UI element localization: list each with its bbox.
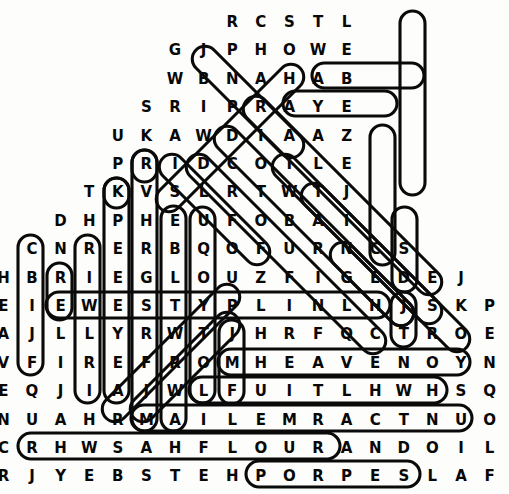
grid-cell[interactable]: R xyxy=(306,237,330,261)
grid-cell[interactable]: H xyxy=(77,408,101,432)
grid-cell[interactable]: G xyxy=(134,266,158,290)
grid-cell[interactable]: J xyxy=(449,266,473,290)
grid-cell[interactable]: R xyxy=(0,464,15,488)
grid-cell[interactable]: B xyxy=(20,266,44,290)
grid-cell[interactable]: H xyxy=(249,322,273,346)
grid-cell[interactable]: V xyxy=(134,180,158,204)
grid-cell[interactable]: E xyxy=(335,38,359,62)
grid-cell[interactable]: N xyxy=(306,294,330,318)
grid-cell[interactable]: A xyxy=(306,67,330,91)
grid-cell[interactable]: C xyxy=(363,322,387,346)
grid-cell[interactable]: H xyxy=(163,436,187,460)
grid-cell[interactable]: J xyxy=(220,322,244,346)
grid-cell[interactable]: W xyxy=(192,124,216,148)
grid-cell[interactable]: A xyxy=(106,379,130,403)
grid-cell[interactable]: N xyxy=(0,408,15,432)
grid-cell[interactable]: E xyxy=(363,266,387,290)
grid-cell[interactable]: U xyxy=(20,408,44,432)
grid-cell[interactable]: R xyxy=(163,95,187,119)
grid-cell[interactable]: A xyxy=(163,408,187,432)
grid-cell[interactable]: N xyxy=(478,351,502,375)
grid-cell[interactable]: I xyxy=(192,408,216,432)
grid-cell[interactable]: B xyxy=(163,237,187,261)
grid-cell[interactable]: M xyxy=(134,408,158,432)
grid-cell[interactable]: N xyxy=(392,351,416,375)
grid-cell[interactable]: J xyxy=(335,180,359,204)
grid-cell[interactable]: W xyxy=(163,67,187,91)
grid-cell[interactable]: P xyxy=(220,294,244,318)
grid-cell[interactable]: W xyxy=(77,436,101,460)
grid-cell[interactable]: Y xyxy=(49,464,73,488)
grid-cell[interactable]: L xyxy=(192,180,216,204)
grid-cell[interactable]: E xyxy=(249,408,273,432)
grid-cell[interactable]: Z xyxy=(249,266,273,290)
grid-cell[interactable]: U xyxy=(277,237,301,261)
grid-cell[interactable]: I xyxy=(77,266,101,290)
grid-cell[interactable]: C xyxy=(0,436,15,460)
grid-cell[interactable]: A xyxy=(49,408,73,432)
grid-cell[interactable]: E xyxy=(478,322,502,346)
grid-cell[interactable]: H xyxy=(220,464,244,488)
grid-cell[interactable]: P xyxy=(106,152,130,176)
grid-cell[interactable]: H xyxy=(420,379,444,403)
grid-cell[interactable]: I xyxy=(163,152,187,176)
grid-cell[interactable]: B xyxy=(335,67,359,91)
grid-cell[interactable]: A xyxy=(134,436,158,460)
grid-cell[interactable]: Y xyxy=(306,95,330,119)
grid-cell[interactable]: L xyxy=(220,436,244,460)
grid-cell[interactable]: B xyxy=(192,67,216,91)
grid-cell[interactable]: E xyxy=(49,294,73,318)
grid-cell[interactable]: U xyxy=(220,266,244,290)
grid-cell[interactable]: T xyxy=(249,180,273,204)
grid-cell[interactable]: H xyxy=(249,351,273,375)
grid-cell[interactable]: T xyxy=(392,408,416,432)
grid-cell[interactable]: B xyxy=(106,464,130,488)
grid-cell[interactable]: J xyxy=(20,322,44,346)
grid-cell[interactable]: L xyxy=(220,408,244,432)
grid-cell[interactable]: G xyxy=(335,266,359,290)
grid-cell[interactable]: I xyxy=(449,436,473,460)
grid-cell[interactable]: M xyxy=(220,351,244,375)
grid-cell[interactable]: T xyxy=(192,322,216,346)
grid-cell[interactable]: E xyxy=(77,464,101,488)
grid-cell[interactable]: L xyxy=(49,322,73,346)
grid-cell[interactable]: A xyxy=(306,351,330,375)
grid-cell[interactable]: R xyxy=(306,436,330,460)
grid-cell[interactable]: W xyxy=(306,38,330,62)
grid-cell[interactable]: N xyxy=(420,408,444,432)
grid-cell[interactable]: J xyxy=(392,294,416,318)
grid-cell[interactable]: W xyxy=(392,379,416,403)
grid-cell[interactable]: F xyxy=(306,322,330,346)
grid-cell[interactable]: R xyxy=(134,322,158,346)
grid-cell[interactable]: R xyxy=(306,464,330,488)
grid-cell[interactable]: R xyxy=(20,436,44,460)
grid-cell[interactable]: A xyxy=(277,95,301,119)
grid-cell[interactable]: T xyxy=(392,322,416,346)
grid-cell[interactable]: O xyxy=(220,237,244,261)
grid-cell[interactable]: G xyxy=(163,38,187,62)
grid-cell[interactable]: J xyxy=(192,38,216,62)
grid-cell[interactable]: E xyxy=(106,266,130,290)
grid-cell[interactable]: J xyxy=(49,379,73,403)
grid-cell[interactable]: S xyxy=(449,379,473,403)
grid-cell[interactable]: R xyxy=(163,351,187,375)
grid-cell[interactable]: U xyxy=(249,379,273,403)
grid-cell[interactable]: N xyxy=(220,67,244,91)
grid-cell[interactable]: C xyxy=(363,408,387,432)
grid-cell[interactable]: T xyxy=(306,10,330,34)
grid-cell[interactable]: P xyxy=(220,38,244,62)
grid-cell[interactable]: R xyxy=(249,95,273,119)
grid-cell[interactable]: U xyxy=(277,436,301,460)
grid-cell[interactable]: H xyxy=(134,209,158,233)
grid-cell[interactable]: E xyxy=(363,351,387,375)
grid-cell[interactable]: P xyxy=(335,464,359,488)
grid-cell[interactable]: I xyxy=(277,294,301,318)
grid-cell[interactable]: E xyxy=(163,209,187,233)
grid-cell[interactable]: M xyxy=(277,408,301,432)
grid-cell[interactable]: F xyxy=(20,351,44,375)
grid-cell[interactable]: U xyxy=(106,124,130,148)
grid-cell[interactable]: A xyxy=(335,436,359,460)
grid-cell[interactable]: L xyxy=(192,379,216,403)
grid-cell[interactable]: S xyxy=(277,10,301,34)
grid-cell[interactable]: O xyxy=(277,464,301,488)
